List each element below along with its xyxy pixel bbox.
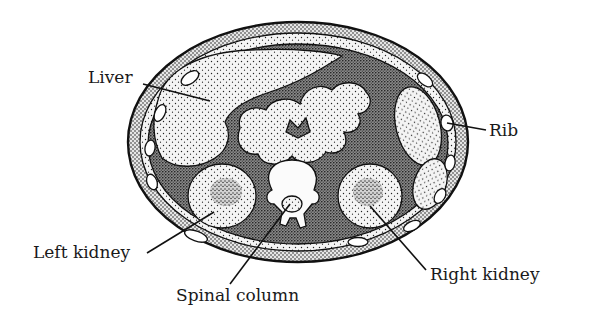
label-spinal-column: Spinal column (176, 285, 299, 305)
right-kidney-pelvis (353, 178, 383, 206)
label-right-kidney: Right kidney (430, 264, 540, 284)
rib (348, 238, 368, 247)
label-rib: Rib (489, 120, 518, 140)
abdomen-cross-section-diagram: Liver Rib Left kidney Spinal column Righ… (0, 0, 592, 322)
left-kidney-pelvis (210, 178, 242, 206)
label-left-kidney: Left kidney (33, 242, 131, 262)
label-liver: Liver (88, 67, 133, 87)
